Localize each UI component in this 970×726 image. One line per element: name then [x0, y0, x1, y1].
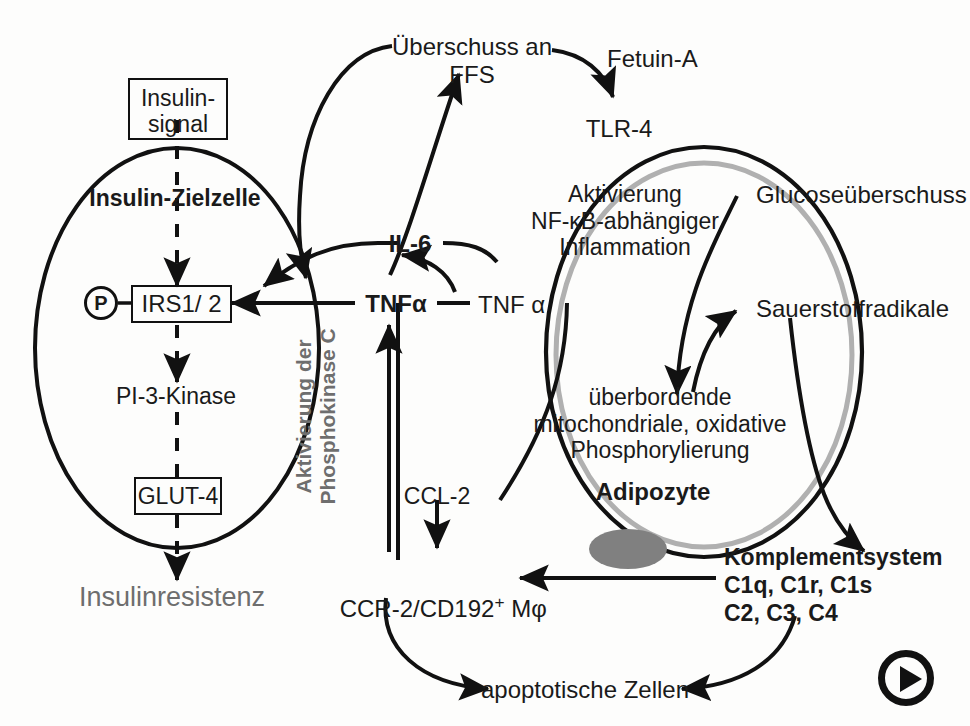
insulin-signal-box: Insulin- signal: [128, 78, 228, 140]
tnfa-outside-label: TNF α: [478, 291, 545, 319]
il6-to-target-cell-arrow: [264, 243, 378, 286]
il6-label: IL-6: [389, 230, 432, 258]
apoptotic-cells-label: apoptotische Zellen: [481, 676, 689, 704]
play-button-icon[interactable]: [878, 650, 934, 706]
glucose-excess-label: Glucoseüberschuss: [756, 181, 967, 209]
insulin-resistance-label: Insulinresistenz: [79, 582, 265, 613]
fetuin-a-label: Fetuin-A: [607, 45, 698, 73]
macrophage-label-suffix: Mφ: [504, 595, 546, 622]
ffs-excess-label: Überschuss an FFS: [392, 33, 552, 89]
ffs-to-tlr4-arrow: [552, 50, 613, 97]
adipocyte-lipid-droplet: [589, 529, 667, 569]
adipocyte-label: Adipozyte: [596, 478, 711, 506]
ccl2-label: CCL-2: [404, 483, 470, 510]
macrophage-label-superscript: +: [494, 592, 504, 612]
complement-system-label: Komplementsystem C1q, C1r, C1s C2, C3, C…: [724, 543, 943, 627]
nfkb-activation-label: Aktivierung NF-κB-abhängiger Inflammatio…: [531, 181, 719, 261]
macrophage-label-prefix: CCR-2/CD192: [340, 595, 495, 622]
tnfa-inside-label: TNFα: [365, 290, 426, 318]
il6-right-connector: [443, 243, 497, 262]
glut4-box: GLUT-4: [134, 477, 222, 515]
diagram-canvas: Insulin- signal Insulin-Zielzelle P IRS1…: [0, 0, 970, 726]
irs-box: IRS1/ 2: [131, 285, 232, 323]
insulin-target-cell-label: Insulin-Zielzelle: [89, 185, 260, 212]
mito-to-oxygen-radicals-arrow: [693, 311, 736, 392]
phosphorylation-marker: P: [84, 286, 118, 320]
macrophage-label: CCR-2/CD192+ Mφ: [313, 564, 547, 650]
tnfa-right-to-il6-arrow: [402, 255, 455, 292]
oxygen-radicals-label: Sauerstoffradikale: [756, 295, 949, 323]
oxidative-phosphorylation-label: überbordende mitochondriale, oxidative P…: [533, 384, 786, 464]
pi3-kinase-label: PI-3-Kinase: [116, 383, 236, 410]
tlr4-label: TLR-4: [586, 115, 653, 143]
pkc-activation-label: Aktivierung der Phosphokinase C: [292, 306, 341, 526]
